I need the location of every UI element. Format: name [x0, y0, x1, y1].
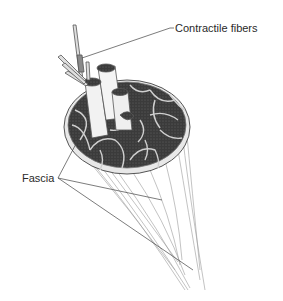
label-fascia: Fascia: [22, 172, 54, 184]
contractile-fibers-leader: [82, 28, 174, 58]
fascia-leader-1: [58, 140, 78, 178]
contractile-fibers-rods: [58, 25, 90, 86]
muscle-diagram: Contractile fibers Fascia: [0, 0, 283, 301]
label-contractile-fibers: Contractile fibers: [175, 22, 258, 34]
fascia-leader-3: [58, 178, 193, 270]
muscle-illustration: [0, 0, 283, 301]
